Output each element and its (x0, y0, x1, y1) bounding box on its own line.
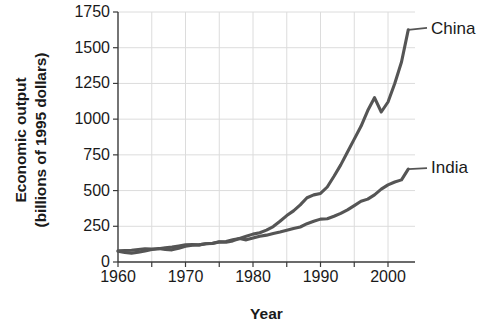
y-tick-label: 1500 (52, 40, 110, 56)
chart-svg (118, 12, 415, 262)
y-tick-label: 1750 (52, 4, 110, 20)
x-tick-label: 1970 (156, 268, 216, 286)
y-tick-label: 750 (52, 147, 110, 163)
y-tick-label: 250 (52, 218, 110, 234)
y-tick-label: 1250 (52, 75, 110, 91)
x-tick-label: 2000 (358, 268, 418, 286)
data-series (118, 30, 408, 253)
x-tick-label: 1960 (88, 268, 148, 286)
series-label-china: China (431, 19, 475, 39)
plot-area (118, 12, 415, 262)
chart-figure: Economic output (billions of 1995 dollar… (0, 0, 482, 326)
x-tick-label: 1980 (223, 268, 283, 286)
y-tick-label: 500 (52, 183, 110, 199)
gridlines (118, 12, 415, 262)
leader-line-china (408, 28, 427, 30)
x-tick-label: 1990 (291, 268, 351, 286)
y-axis-title-line1: Economic output (11, 77, 31, 202)
x-axis-title: Year (118, 305, 415, 323)
axis-lines (118, 12, 415, 262)
series-line-china (118, 30, 408, 253)
leader-line-india (408, 168, 427, 169)
y-tick-label: 1000 (52, 111, 110, 127)
y-axis-title-line2: (billions of 1995 dollars) (31, 53, 51, 228)
series-label-india: India (431, 158, 468, 178)
series-line-india (118, 169, 408, 251)
axis-ticks (113, 12, 388, 267)
series-leader-lines (408, 28, 427, 169)
y-axis-title: Economic output (billions of 1995 dollar… (8, 15, 54, 265)
